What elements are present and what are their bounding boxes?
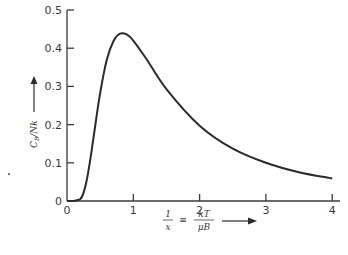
x-tick-label: 3 bbox=[262, 204, 269, 217]
y-tick-label: 0.2 bbox=[45, 119, 63, 132]
y-tick-label: 0 bbox=[55, 195, 62, 208]
scan-speck bbox=[8, 173, 10, 175]
svg-text:kT: kT bbox=[198, 209, 210, 219]
svg-text:1: 1 bbox=[165, 209, 171, 219]
data-curve bbox=[67, 33, 332, 201]
x-ticks bbox=[133, 194, 332, 201]
y-tick-label: 0.4 bbox=[45, 42, 63, 55]
svg-text:μB: μB bbox=[198, 222, 211, 232]
x-tick-label: 1 bbox=[130, 204, 137, 217]
y-axis-label: CB/Nk bbox=[29, 76, 40, 148]
heat-capacity-chart: 00.10.20.30.40.5 01234 CB/Nk 1 x ≡ kT μB bbox=[0, 0, 348, 255]
x-axis-label: 1 x ≡ kT μB bbox=[163, 209, 257, 232]
arrow-right-icon bbox=[248, 218, 257, 225]
y-tick-label: 0.1 bbox=[45, 157, 63, 170]
y-ticks bbox=[67, 10, 74, 163]
svg-text:x: x bbox=[165, 222, 170, 232]
x-tick-label: 4 bbox=[329, 204, 336, 217]
x-tick-label: 0 bbox=[64, 204, 71, 217]
y-tick-label: 0.3 bbox=[45, 80, 63, 93]
svg-text:CB/Nk: CB/Nk bbox=[29, 120, 40, 148]
arrow-up-icon bbox=[31, 76, 38, 84]
y-tick-labels: 00.10.20.30.40.5 bbox=[45, 4, 63, 208]
svg-text:≡: ≡ bbox=[179, 215, 187, 225]
y-tick-label: 0.5 bbox=[45, 4, 63, 17]
